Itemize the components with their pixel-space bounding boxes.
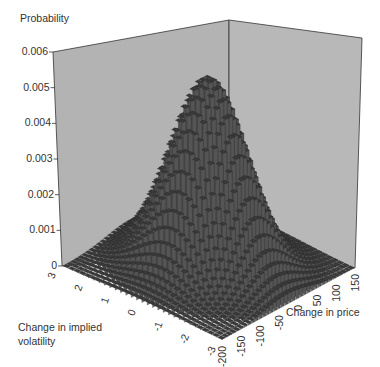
axis-tick-label: -100	[254, 325, 266, 346]
z-tick-label: 0.002	[10, 188, 54, 200]
axis-tick-label: 50	[311, 294, 323, 306]
axis-tick-label: 150	[349, 274, 361, 292]
z-tick-label: 0.004	[7, 116, 51, 128]
z-tick-label: 0.003	[9, 152, 53, 164]
y-axis-label: Change in implied volatility	[18, 320, 102, 348]
y-axis-label-line2: volatility	[18, 334, 102, 348]
y-axis-label-line1: Change in implied	[18, 320, 102, 334]
z-tick-label: 0.005	[6, 81, 50, 93]
x-axis-label: Change in price	[286, 306, 360, 318]
axis-tick-label: -1	[150, 320, 165, 333]
z-axis-label: Probability	[20, 12, 69, 24]
axis-tick-label: -200	[216, 346, 228, 367]
axis-tick-label: 1	[98, 295, 111, 305]
z-tick-label: 0.006	[4, 45, 48, 57]
axis-tick-label: -2	[177, 332, 192, 345]
axis-tick-label: -50	[273, 315, 285, 330]
axis-tick-label: 0	[125, 307, 138, 317]
axis-tick-label: 3	[45, 270, 58, 280]
z-tick-label: 0.001	[12, 223, 56, 235]
axis-tick-label: -150	[235, 336, 247, 357]
z-tick-label: 0	[13, 259, 57, 271]
axis-tick-label: 2	[71, 283, 84, 293]
axis-tick-label: 100	[330, 284, 342, 302]
